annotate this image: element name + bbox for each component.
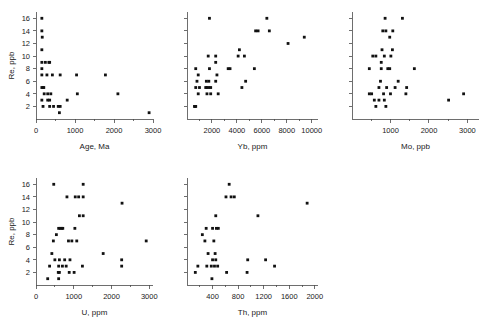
data-point bbox=[211, 258, 214, 261]
panel-age: 2468101214160100020003000Age, MaRe, ppb bbox=[0, 0, 165, 165]
data-point bbox=[68, 271, 71, 274]
data-point bbox=[413, 67, 416, 70]
data-point bbox=[378, 86, 381, 89]
data-point bbox=[214, 258, 217, 261]
data-point bbox=[48, 61, 51, 64]
axis-spines bbox=[36, 178, 153, 285]
data-point bbox=[49, 92, 52, 95]
data-point bbox=[58, 271, 61, 274]
y-tick-label: 4 bbox=[26, 90, 30, 99]
data-point bbox=[209, 86, 212, 89]
data-point bbox=[42, 86, 45, 89]
y-tick-label: 12 bbox=[22, 205, 30, 214]
y-tick-label: 8 bbox=[26, 230, 30, 239]
data-point bbox=[391, 29, 394, 32]
data-point bbox=[257, 29, 260, 32]
data-point bbox=[216, 74, 219, 77]
data-point bbox=[42, 105, 45, 108]
data-point bbox=[51, 74, 54, 77]
x-tick-label: 2000 bbox=[103, 292, 120, 301]
y-tick-label: 6 bbox=[26, 77, 30, 86]
x-tick-label: 3000 bbox=[145, 126, 162, 135]
data-point bbox=[82, 214, 85, 217]
x-tick-label: 10000 bbox=[301, 126, 322, 135]
data-point bbox=[205, 80, 208, 83]
plot-th: 400800120016002000Th, ppm bbox=[165, 166, 330, 331]
data-point bbox=[73, 271, 76, 274]
data-point bbox=[233, 195, 236, 198]
data-point bbox=[82, 183, 85, 186]
x-tick-label: 2000 bbox=[306, 292, 323, 301]
data-point bbox=[59, 105, 62, 108]
data-point bbox=[385, 86, 388, 89]
y-tick-label: 10 bbox=[22, 218, 30, 227]
data-point bbox=[70, 240, 73, 243]
data-point bbox=[194, 271, 197, 274]
y-tick-label: 2 bbox=[26, 102, 30, 111]
data-point bbox=[214, 61, 217, 64]
data-point bbox=[48, 105, 51, 108]
data-point bbox=[210, 265, 213, 268]
y-tick-label: 14 bbox=[22, 27, 30, 36]
x-axis-title: Yb, ppm bbox=[238, 142, 268, 151]
data-point bbox=[46, 92, 49, 95]
data-point bbox=[462, 92, 465, 95]
data-point bbox=[207, 252, 210, 255]
data-point bbox=[213, 265, 216, 268]
data-point bbox=[198, 86, 201, 89]
data-point bbox=[61, 265, 64, 268]
data-point bbox=[194, 67, 197, 70]
data-point bbox=[405, 86, 408, 89]
axis-spines bbox=[187, 12, 318, 119]
data-point bbox=[197, 74, 200, 77]
data-point bbox=[104, 74, 107, 77]
data-point bbox=[273, 265, 276, 268]
x-tick-label: 8000 bbox=[278, 126, 295, 135]
data-point bbox=[303, 36, 306, 39]
data-point bbox=[50, 252, 53, 255]
data-point bbox=[211, 277, 214, 280]
data-point bbox=[57, 265, 60, 268]
data-point bbox=[380, 61, 383, 64]
data-point bbox=[214, 80, 217, 83]
data-point bbox=[380, 67, 383, 70]
data-point bbox=[206, 92, 209, 95]
x-tick-label: 1000 bbox=[382, 126, 399, 135]
data-point bbox=[389, 55, 392, 58]
data-point bbox=[205, 227, 208, 230]
axis-spines bbox=[352, 12, 479, 119]
data-point bbox=[394, 86, 397, 89]
data-point bbox=[66, 99, 69, 102]
data-point bbox=[194, 86, 197, 89]
data-point bbox=[52, 183, 55, 186]
panel-u: 2468101214160100020003000U, ppmRe, ppb bbox=[0, 166, 165, 331]
plot-yb: 200040006000800010000Yb, ppm bbox=[165, 0, 330, 165]
data-point bbox=[257, 214, 260, 217]
data-point bbox=[211, 227, 214, 230]
x-tick-label: 1600 bbox=[281, 292, 298, 301]
data-point bbox=[75, 74, 78, 77]
data-point bbox=[374, 105, 377, 108]
data-point bbox=[225, 271, 228, 274]
x-tick-label: 800 bbox=[232, 292, 245, 301]
data-point bbox=[379, 80, 382, 83]
data-point bbox=[201, 233, 204, 236]
y-tick-label: 10 bbox=[22, 52, 30, 61]
y-tick-label: 12 bbox=[22, 39, 30, 48]
data-point bbox=[58, 111, 61, 114]
data-point bbox=[381, 48, 384, 51]
panel-yb: 200040006000800010000Yb, ppm bbox=[165, 0, 330, 165]
data-point bbox=[58, 258, 61, 261]
data-point bbox=[75, 240, 78, 243]
data-point bbox=[57, 277, 60, 280]
x-tick-label: 3000 bbox=[141, 292, 158, 301]
data-point bbox=[65, 265, 68, 268]
plot-age: 2468101214160100020003000Age, MaRe, ppb bbox=[0, 0, 165, 165]
x-tick-label: 0 bbox=[34, 126, 38, 135]
data-point bbox=[48, 265, 51, 268]
data-point bbox=[203, 240, 206, 243]
data-point bbox=[196, 265, 199, 268]
data-point bbox=[102, 252, 105, 255]
data-point bbox=[41, 36, 44, 39]
data-point bbox=[214, 214, 217, 217]
